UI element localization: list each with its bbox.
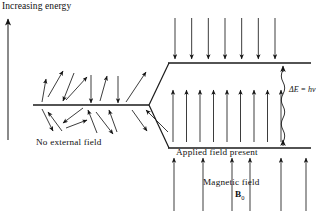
lower-level-spin-arrows: [173, 90, 281, 142]
split-line-upper: [149, 63, 169, 105]
random-spin-arrow: [63, 108, 83, 123]
random-spin-arrow: [96, 112, 113, 134]
applied-field-present-label: Applied field present: [176, 147, 258, 157]
random-spin-arrow: [109, 110, 117, 132]
energy-levels: [33, 63, 311, 148]
random-spin-arrow: [48, 112, 62, 131]
random-spin-arrows: [42, 71, 168, 134]
field-symbol-label: B0: [235, 189, 244, 201]
energy-axis-label: Increasing energy: [2, 1, 71, 11]
upper-level-spin-arrows: [175, 18, 275, 59]
field-symbol-subscript: 0: [241, 194, 244, 201]
nmr-energy-level-diagram: Increasing energy No external field Appl…: [0, 0, 327, 211]
random-spin-arrow: [146, 110, 168, 132]
random-spin-arrow: [48, 71, 63, 97]
no-external-field-label: No external field: [36, 137, 102, 147]
random-spin-arrow: [132, 110, 147, 131]
photon-transition: [281, 66, 284, 146]
magnetic-field-label: Magnetic field: [203, 177, 260, 187]
random-spin-arrow: [88, 110, 97, 133]
split-line-lower: [149, 105, 169, 148]
energy-gap-label: ΔE = hν: [289, 85, 316, 94]
random-spin-arrow: [42, 109, 53, 131]
random-spin-arrow: [66, 77, 87, 100]
photon-wavy-line: [281, 70, 284, 142]
random-spin-arrow: [100, 76, 107, 101]
random-spin-arrow: [66, 120, 87, 128]
random-spin-arrow: [42, 79, 46, 102]
random-spin-arrow: [126, 72, 146, 102]
diagram-canvas: [0, 0, 327, 211]
